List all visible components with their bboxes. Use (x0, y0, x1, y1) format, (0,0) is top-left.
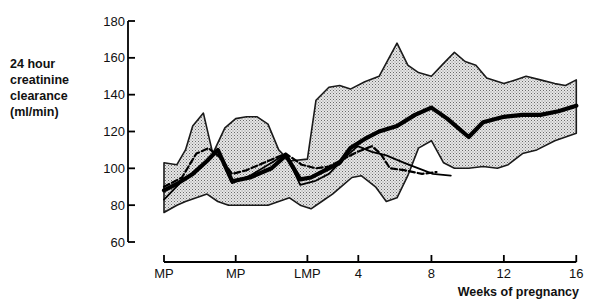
x-tick-label: MP (154, 266, 174, 281)
y-tick-label: 140 (103, 87, 125, 102)
y-tick-label: 160 (103, 50, 125, 65)
y-axis-title: 24 hour creatinine clearance (ml/min) (10, 56, 69, 120)
x-tick-label: 8 (428, 266, 435, 281)
y-tick-label: 60 (111, 235, 125, 250)
x-tick-label: 12 (497, 266, 511, 281)
y-tick-label: 120 (103, 124, 125, 139)
y-tick-label: 100 (103, 161, 125, 176)
x-tick-label: LMP (294, 266, 321, 281)
y-axis-title-line: (ml/min) (10, 104, 69, 120)
y-axis-title-line: 24 hour (10, 56, 69, 72)
y-axis-title-line: creatinine (10, 72, 69, 88)
x-axis: MPMPLMP481216 (154, 255, 583, 281)
x-tick-label: 16 (569, 266, 583, 281)
x-tick-label: MP (226, 266, 246, 281)
y-axis-title-line: clearance (10, 88, 69, 104)
y-tick-label: 180 (103, 14, 125, 29)
x-tick-label: 4 (355, 266, 362, 281)
y-tick-label: 80 (111, 198, 125, 213)
shaded-range (164, 43, 576, 212)
x-axis-title: Weeks of pregnancy (458, 285, 579, 299)
chart-canvas: 6080100120140160180 MPMPLMP481216 (0, 0, 591, 308)
y-axis: 6080100120140160180 (103, 14, 135, 250)
range-band (164, 43, 576, 212)
